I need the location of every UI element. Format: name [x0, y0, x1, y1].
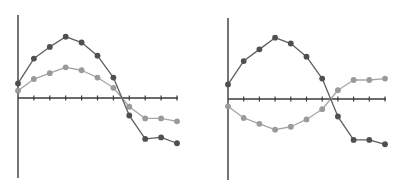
dark-data-point [79, 40, 85, 46]
dark-data-point [174, 140, 180, 146]
light-data-point [95, 75, 101, 81]
light-data-point [174, 118, 180, 124]
light-data-point [15, 88, 21, 94]
light-data-point [366, 77, 372, 83]
light-data-point [79, 67, 85, 73]
light-data-point [241, 115, 247, 121]
light-data-point [319, 106, 325, 112]
chart-figure [0, 0, 402, 192]
light-data-point [335, 87, 341, 93]
dark-data-point [47, 44, 53, 50]
chart-canvas [0, 0, 402, 192]
dark-data-point [366, 137, 372, 143]
light-data-point [31, 76, 37, 82]
dark-data-point [225, 82, 231, 88]
dark-data-point [288, 41, 294, 47]
light-data-point [47, 70, 53, 76]
dark-data-point [272, 35, 278, 41]
dark-series-line [228, 38, 385, 145]
light-data-point [351, 77, 357, 83]
dark-data-point [95, 53, 101, 59]
light-data-point [158, 116, 164, 122]
dark-data-point [319, 76, 325, 82]
dark-data-point [335, 114, 341, 120]
dark-data-point [382, 141, 388, 147]
dark-data-point [304, 54, 310, 60]
light-data-point [257, 121, 263, 127]
light-data-point [126, 104, 132, 110]
dark-data-point [158, 135, 164, 141]
dark-data-point [241, 58, 247, 64]
light-data-point [225, 103, 231, 109]
right-line-chart [225, 18, 388, 180]
light-data-point [272, 127, 278, 133]
light-data-point [142, 116, 148, 122]
light-data-point [382, 76, 388, 82]
left-line-chart [15, 15, 180, 178]
dark-data-point [351, 137, 357, 143]
dark-data-point [111, 75, 117, 81]
dark-data-point [257, 46, 263, 52]
dark-data-point [126, 113, 132, 119]
light-data-point [304, 117, 310, 123]
dark-data-point [63, 34, 69, 40]
dark-data-point [15, 81, 21, 87]
light-data-point [288, 124, 294, 130]
dark-data-point [142, 136, 148, 142]
dark-series-line [18, 37, 177, 144]
dark-data-point [31, 56, 37, 62]
light-data-point [111, 85, 117, 91]
light-data-point [63, 64, 69, 70]
